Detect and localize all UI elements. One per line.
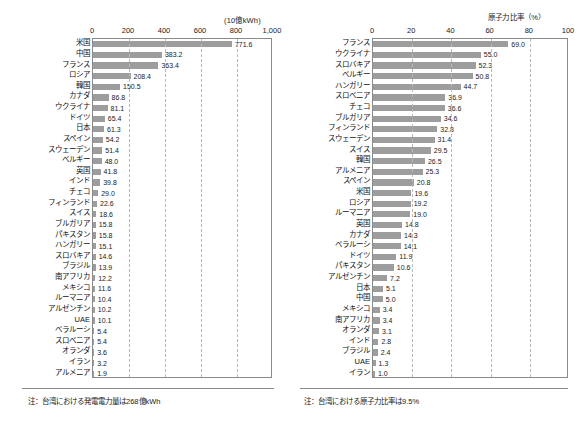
left-gridline <box>237 39 238 377</box>
bar <box>373 137 435 143</box>
bar <box>93 147 102 153</box>
right-axis-tick: 0 <box>370 26 374 35</box>
bar <box>93 296 95 302</box>
bar <box>373 126 437 132</box>
bar <box>373 307 380 313</box>
bar <box>93 105 108 111</box>
bar <box>93 190 98 196</box>
bar <box>373 190 411 196</box>
left-bar-rows: 771.6383.2363.4208.4150.586.881.165.461.… <box>93 39 271 377</box>
category-label: スロベニア <box>55 337 90 345</box>
left-plot-area: 771.6383.2363.4208.4150.586.881.165.461.… <box>92 38 272 378</box>
right-footnote: 注：台湾における原子力比率は9.5% <box>304 395 419 406</box>
bar <box>373 62 476 68</box>
bar <box>373 254 396 260</box>
left-axis-tick: 600 <box>194 26 207 35</box>
bar <box>373 296 383 302</box>
bar-value-label: 61.3 <box>107 126 121 133</box>
right-gridline <box>491 39 492 377</box>
bar <box>373 84 461 90</box>
bar <box>93 94 109 100</box>
bar <box>93 84 120 90</box>
bar <box>93 339 94 345</box>
category-label: 英国 <box>76 167 90 175</box>
bar <box>373 52 481 58</box>
bar-value-label: 5.4 <box>97 338 107 345</box>
bar <box>93 52 162 58</box>
category-label: フィンランド <box>48 199 90 207</box>
category-label: スロバキア <box>55 252 90 260</box>
bar <box>373 317 380 323</box>
right-footnote-rule <box>300 388 568 389</box>
right-gridline <box>412 39 413 377</box>
bar <box>93 371 94 377</box>
bar <box>93 116 105 122</box>
category-label: 米国 <box>76 39 90 47</box>
bar-value-label: 29.5 <box>434 147 448 154</box>
bar <box>93 286 95 292</box>
category-label: カナダ <box>69 92 90 100</box>
bar <box>93 179 100 185</box>
left-axis-tick: 0 <box>90 26 94 35</box>
category-label: フランス <box>62 61 90 69</box>
right-axis-tick: 100 <box>562 26 575 35</box>
category-label: アルゼンチン <box>48 305 90 313</box>
bar <box>373 264 394 270</box>
left-axis-tick: 200 <box>122 26 135 35</box>
right-axis-tick: 60 <box>485 26 493 35</box>
category-label: 日本 <box>356 284 370 292</box>
bar-value-label: 3.4 <box>383 306 393 313</box>
category-label: パキスタン <box>55 231 90 239</box>
bar <box>93 307 95 313</box>
category-label: ロシア <box>69 71 90 79</box>
bar <box>93 243 96 249</box>
bar-value-label: 15.8 <box>99 232 113 239</box>
bar <box>93 360 94 366</box>
bar <box>373 147 431 153</box>
bar-value-label: 26.5 <box>428 158 442 165</box>
category-label: インド <box>349 337 370 345</box>
category-label: ウクライナ <box>55 103 90 111</box>
bar <box>93 211 96 217</box>
bar <box>373 179 414 185</box>
category-label: チェコ <box>69 188 90 196</box>
category-label: 英国 <box>356 220 370 228</box>
bar-value-label: 5.0 <box>386 296 396 303</box>
bar <box>93 232 96 238</box>
category-label: ベラルーシ <box>55 326 90 334</box>
bar-value-label: 5.1 <box>386 285 396 292</box>
bar <box>373 201 411 207</box>
bar <box>373 232 401 238</box>
bar-value-label: 3.4 <box>383 317 393 324</box>
category-label: スウェーデン <box>48 146 90 154</box>
bar-value-label: 1.0 <box>378 370 388 377</box>
category-label: スウェーデン <box>328 135 370 143</box>
bar-value-label: 15.1 <box>99 243 113 250</box>
bar-value-label: 14.6 <box>99 253 113 260</box>
bar-value-label: 65.4 <box>108 115 122 122</box>
bar-value-label: 19.2 <box>414 200 428 207</box>
bar-value-label: 10.6 <box>397 264 411 271</box>
category-label: スロベニア <box>335 92 370 100</box>
left-footnote: 注：台湾における発電電力量は268億kWh <box>28 395 161 406</box>
category-label: アルメニア <box>335 167 370 175</box>
category-label: スイス <box>349 146 370 154</box>
bar-value-label: 2.4 <box>381 349 391 356</box>
bar <box>93 137 103 143</box>
bar <box>373 105 445 111</box>
bar-value-label: 48.0 <box>105 158 119 165</box>
bar-value-label: 7.2 <box>390 275 400 282</box>
bar-value-label: 36.9 <box>448 94 462 101</box>
bar-value-label: 208.4 <box>134 73 152 80</box>
category-label: 南アフリカ <box>335 316 370 324</box>
right-x-axis: 020406080100 <box>372 26 568 37</box>
bar-value-label: 3.1 <box>382 328 392 335</box>
bar <box>93 62 158 68</box>
bar-value-label: 11.6 <box>98 285 111 292</box>
bar <box>93 169 101 175</box>
category-label: UAE <box>355 358 370 366</box>
bar-value-label: 10.4 <box>98 296 112 303</box>
bar <box>93 73 131 79</box>
category-label: ベルギー <box>342 71 370 79</box>
bar-value-label: 25.3 <box>426 168 440 175</box>
